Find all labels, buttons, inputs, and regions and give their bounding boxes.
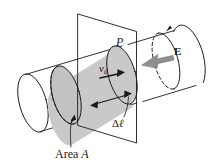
electric-field-label-E: E	[174, 46, 181, 57]
area-label: Area A	[55, 148, 89, 160]
cylinder-left-end-cap	[12, 70, 54, 135]
area-label-word: Area	[55, 147, 78, 161]
slab-length-label: Δℓ	[112, 118, 124, 129]
electric-field-arrow-body	[142, 55, 174, 69]
plane-label-P: P	[116, 36, 123, 48]
figure-canvas	[0, 0, 211, 166]
drift-velocity-subscript: d	[104, 67, 108, 76]
conductor-right-section	[128, 21, 210, 101]
cylinder-right-bottom-edge	[143, 86, 196, 102]
ell-symbol: ℓ	[119, 117, 124, 129]
area-label-symbol: A	[81, 147, 88, 161]
right-cap-arrowhead	[166, 26, 172, 32]
drift-velocity-label: vd	[99, 63, 108, 76]
physics-figure-drift-velocity: P E vd Δℓ Area A	[0, 0, 211, 166]
electric-field-arrow	[142, 55, 174, 69]
